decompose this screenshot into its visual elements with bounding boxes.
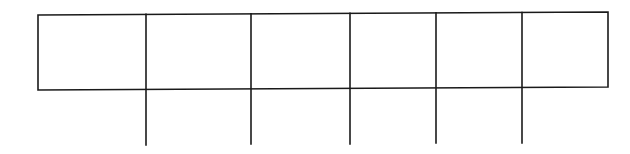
segmented-box-diagram: [0, 0, 630, 154]
